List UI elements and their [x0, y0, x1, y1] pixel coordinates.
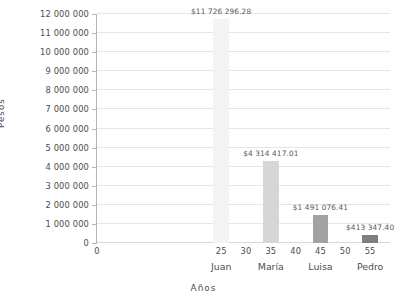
x-tick-label: 45 — [315, 246, 326, 256]
y-tick-mark — [92, 243, 96, 244]
y-tick-label: 0 — [84, 238, 89, 248]
y-tick-label: 11 000 000 — [40, 28, 89, 38]
data-label: $1 491 076.41 — [293, 203, 348, 212]
data-label: $413 347.40 — [346, 223, 394, 232]
x-tick-label: 50 — [340, 246, 351, 256]
y-tick-label: 1 000 000 — [45, 219, 89, 229]
y-tick-label: 10 000 000 — [40, 47, 89, 57]
gridline — [97, 242, 390, 243]
y-tick-label: 8 000 000 — [45, 85, 89, 95]
x-tick-label: 30 — [241, 246, 252, 256]
gridline — [97, 147, 390, 148]
y-tick-label: 9 000 000 — [45, 66, 89, 76]
y-tick-label: 7 000 000 — [45, 104, 89, 114]
gridline — [97, 185, 390, 186]
y-tick-mark — [92, 52, 96, 53]
data-label: $11 726 296.28 — [191, 7, 251, 16]
y-tick-mark — [92, 14, 96, 15]
x-tick-label: 55 — [365, 246, 376, 256]
gridline — [97, 70, 390, 71]
y-tick-label: 2 000 000 — [45, 200, 89, 210]
x-category-label-luisa: Luisa — [308, 261, 332, 272]
y-tick-label: 4 000 000 — [45, 162, 89, 172]
bar-pedro[interactable] — [362, 235, 378, 243]
gridline — [97, 51, 390, 52]
x-category-label-mara: María — [258, 261, 284, 272]
x-tick-label: 25 — [216, 246, 227, 256]
y-tick-mark — [92, 167, 96, 168]
y-tick-label: 5 000 000 — [45, 143, 89, 153]
x-category-label-pedro: Pedro — [357, 261, 383, 272]
gridline — [97, 166, 390, 167]
gridline — [97, 32, 390, 33]
plot-area: $11 726 296.28$4 314 417.01$1 491 076.41… — [97, 14, 390, 243]
y-tick-mark — [92, 71, 96, 72]
y-tick-mark — [92, 109, 96, 110]
bar-chart-figure: $11 726 296.28$4 314 417.01$1 491 076.41… — [0, 0, 407, 305]
y-tick-mark — [92, 148, 96, 149]
y-tick-mark — [92, 186, 96, 187]
y-tick-mark — [92, 224, 96, 225]
y-tick-label: 12 000 000 — [40, 9, 89, 19]
x-tick-label: 40 — [290, 246, 301, 256]
bar-luisa[interactable] — [313, 215, 329, 243]
y-tick-label: 6 000 000 — [45, 124, 89, 134]
gridline — [97, 128, 390, 129]
y-tick-label: 3 000 000 — [45, 181, 89, 191]
x-tick-label: 0 — [94, 246, 99, 256]
y-tick-mark — [92, 129, 96, 130]
x-tick-label: 35 — [265, 246, 276, 256]
y-tick-mark — [92, 205, 96, 206]
y-tick-mark — [92, 90, 96, 91]
y-axis-title: Pesos — [0, 98, 6, 128]
bar-mara[interactable] — [263, 161, 279, 243]
gridline — [97, 108, 390, 109]
bar-juan[interactable] — [213, 19, 229, 243]
y-axis-line — [96, 14, 97, 244]
y-tick-mark — [92, 33, 96, 34]
x-category-label-juan: Juan — [211, 261, 231, 272]
data-label: $4 314 417.01 — [243, 149, 298, 158]
gridline — [97, 89, 390, 90]
x-axis-title: Años — [0, 283, 407, 293]
